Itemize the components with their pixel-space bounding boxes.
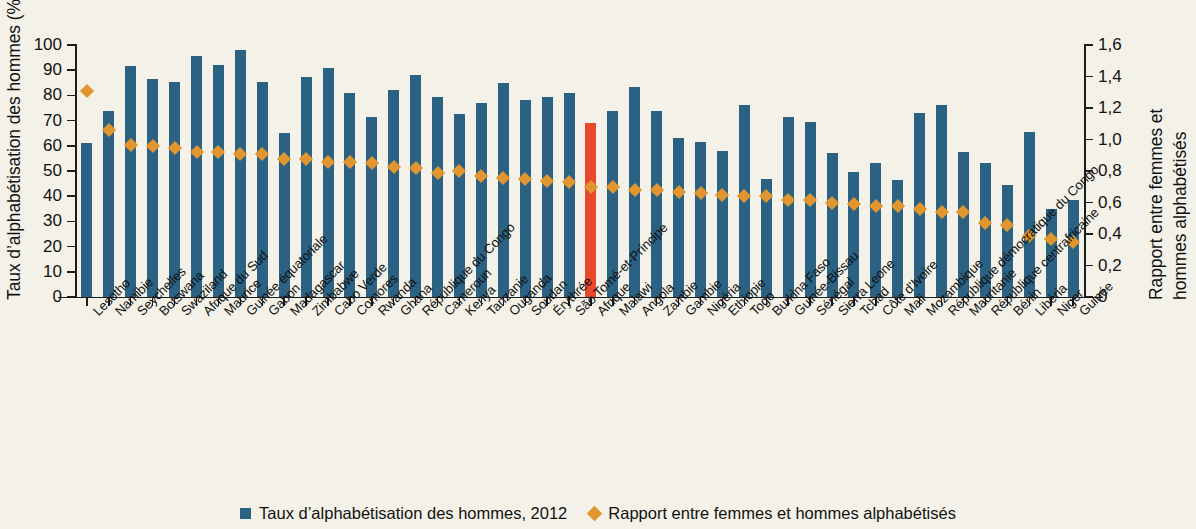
y-tick-label-right: 1,0 bbox=[1098, 130, 1144, 150]
y-tick-label-right: 0,2 bbox=[1098, 256, 1144, 276]
y-tick-left bbox=[67, 69, 76, 71]
y-tick-left bbox=[67, 44, 76, 46]
bar bbox=[191, 56, 202, 297]
bar bbox=[892, 180, 903, 297]
y-tick-label-left: 100 bbox=[16, 35, 62, 55]
bar bbox=[783, 117, 794, 297]
bar bbox=[388, 90, 399, 297]
bar bbox=[213, 65, 224, 297]
bar bbox=[542, 97, 553, 297]
bar bbox=[81, 143, 92, 297]
bar bbox=[103, 111, 114, 297]
y-tick-label-right: 1,6 bbox=[1098, 35, 1144, 55]
bar bbox=[585, 123, 596, 297]
y-tick-label-right: 0,6 bbox=[1098, 193, 1144, 213]
y-tick-left bbox=[67, 195, 76, 197]
bar bbox=[673, 138, 684, 297]
y-tick-label-right: 1,4 bbox=[1098, 67, 1144, 87]
diamond-icon bbox=[587, 506, 603, 522]
y-tick-right bbox=[1084, 202, 1093, 204]
bar bbox=[125, 66, 136, 297]
y-tick-right bbox=[1084, 265, 1093, 267]
y-axis-title-right-line1: Rapport entre femmes et bbox=[1146, 109, 1167, 300]
y-tick-right bbox=[1084, 76, 1093, 78]
bar bbox=[695, 142, 706, 297]
y-tick-label-left: 20 bbox=[16, 237, 62, 257]
bar bbox=[432, 97, 443, 297]
y-tick-label-left: 70 bbox=[16, 111, 62, 131]
y-tick-label-right: 0,8 bbox=[1098, 161, 1144, 181]
y-tick-label-left: 50 bbox=[16, 161, 62, 181]
ratio-marker-diamond-icon bbox=[80, 84, 94, 98]
legend-item: Taux d’alphabétisation des hommes, 2012 bbox=[240, 504, 567, 523]
legend-item: Rapport entre femmes et hommes alphabéti… bbox=[589, 504, 956, 523]
y-tick-label-left: 80 bbox=[16, 85, 62, 105]
y-tick-left bbox=[67, 246, 76, 248]
y-tick-left bbox=[67, 120, 76, 122]
y-tick-label-left: 60 bbox=[16, 136, 62, 156]
y-axis-title-right-line2: hommes alphabétisés bbox=[1170, 132, 1191, 300]
y-tick-right bbox=[1084, 107, 1093, 109]
legend-label: Rapport entre femmes et hommes alphabéti… bbox=[608, 504, 956, 523]
bar bbox=[717, 151, 728, 297]
y-tick-left bbox=[67, 170, 76, 172]
bar bbox=[410, 75, 421, 297]
bar bbox=[498, 83, 509, 297]
y-tick-label-right: 0,4 bbox=[1098, 224, 1144, 244]
y-tick-left bbox=[67, 221, 76, 223]
y-tick-label-left: 30 bbox=[16, 211, 62, 231]
bar bbox=[235, 50, 246, 297]
bar bbox=[564, 93, 575, 297]
bar bbox=[147, 79, 158, 297]
literacy-chart: Taux d’alphabétisation des hommes (%) Ra… bbox=[0, 0, 1196, 529]
y-tick-left bbox=[67, 145, 76, 147]
y-tick-left bbox=[67, 296, 76, 298]
bar bbox=[651, 111, 662, 297]
chart-legend: Taux d’alphabétisation des hommes, 2012R… bbox=[0, 504, 1196, 523]
legend-label: Taux d’alphabétisation des hommes, 2012 bbox=[259, 504, 567, 523]
y-tick-label-left: 10 bbox=[16, 262, 62, 282]
y-tick-right bbox=[1084, 44, 1093, 46]
y-tick-right bbox=[1084, 139, 1093, 141]
bar bbox=[520, 100, 531, 297]
y-tick-label-left: 90 bbox=[16, 60, 62, 80]
square-icon bbox=[240, 508, 251, 519]
y-tick-label-right: 1,2 bbox=[1098, 98, 1144, 118]
y-tick-left bbox=[67, 95, 76, 97]
y-tick-left bbox=[67, 271, 76, 273]
y-tick-label-left: 40 bbox=[16, 186, 62, 206]
y-tick-right bbox=[1084, 233, 1093, 235]
x-tick bbox=[86, 297, 87, 306]
y-tick-label-left: 0 bbox=[16, 287, 62, 307]
